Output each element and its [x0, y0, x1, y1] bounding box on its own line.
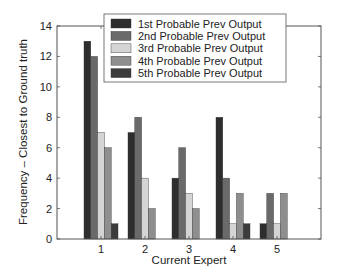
bar [128, 133, 135, 240]
legend-entry-label: 3rd Probable Prev Output [138, 42, 263, 54]
bar [223, 178, 230, 239]
y-tick-label: 8 [46, 111, 52, 123]
bar [186, 193, 193, 239]
x-tick-label: 4 [230, 243, 236, 255]
bar [236, 193, 243, 239]
y-tick-label: 10 [40, 81, 52, 93]
y-tick-label: 2 [46, 203, 52, 215]
legend-swatch [111, 44, 131, 53]
bar [98, 133, 105, 240]
x-tick-label: 1 [98, 243, 104, 255]
x-tick-label: 5 [274, 243, 280, 255]
bar [91, 56, 98, 239]
x-axis-label: Current Expert [152, 254, 228, 266]
bar [104, 148, 111, 239]
bar [192, 209, 199, 239]
legend-swatch [111, 69, 131, 78]
bar [135, 117, 142, 239]
bar [260, 224, 267, 239]
y-tick-label: 14 [40, 20, 52, 32]
legend-entry-label: 1st Probable Prev Output [138, 18, 262, 30]
legend-swatch [111, 19, 131, 28]
bar [148, 209, 155, 239]
bar-chart: 02468101214 12345 Current Expert Frequen… [0, 0, 341, 277]
x-tick-label: 2 [142, 243, 148, 255]
bar [84, 41, 91, 239]
y-axis-label: Frequency – Closest to Ground truth [17, 39, 29, 225]
bar [142, 178, 149, 239]
legend-entry-label: 4th Probable Prev Output [138, 55, 262, 67]
y-tick-label: 6 [46, 142, 52, 154]
legend-swatch [111, 31, 131, 40]
bar [280, 193, 287, 239]
bar [267, 193, 274, 239]
legend-swatch [111, 56, 131, 65]
y-tick-label: 4 [46, 172, 52, 184]
y-tick-label: 0 [46, 233, 52, 245]
y-tick-label: 12 [40, 50, 52, 62]
bar [243, 224, 250, 239]
bar [172, 178, 179, 239]
bar [111, 224, 118, 239]
legend-entry-label: 2nd Probable Prev Output [138, 30, 265, 42]
legend: 1st Probable Prev Output2nd Probable Pre… [104, 14, 286, 82]
bar [216, 117, 223, 239]
bar [179, 148, 186, 239]
legend-entry-label: 5th Probable Prev Output [138, 67, 262, 79]
